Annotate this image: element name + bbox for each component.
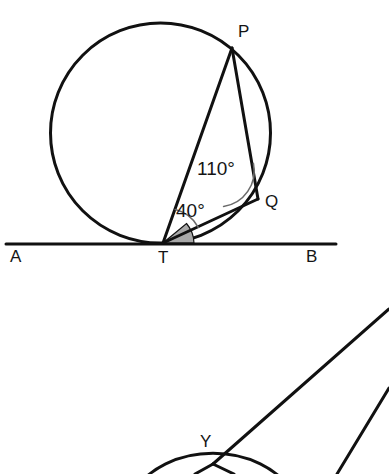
label-point-t: T: [158, 248, 168, 267]
label-point-p: P: [238, 22, 249, 41]
ray-y-down-right: [213, 464, 234, 474]
label-point-b: B: [306, 247, 317, 266]
label-point-a: A: [10, 247, 22, 266]
angle-label-110: 110°: [197, 158, 235, 179]
ray-lower-right: [337, 388, 389, 474]
ray-y-upper-right: [213, 309, 389, 464]
label-point-y: Y: [200, 432, 211, 451]
geometry-figure: P Q T A B 110° 40° Y: [0, 0, 389, 474]
geometry-canvas: P Q T A B 110° 40° Y: [0, 0, 389, 474]
top-diagram-group: P Q T A B 110° 40°: [6, 22, 336, 267]
bottom-diagram-group: Y: [134, 309, 389, 474]
angle-label-40: 40°: [176, 200, 205, 221]
ray-y-down-left: [195, 464, 213, 474]
label-point-q: Q: [265, 192, 278, 211]
